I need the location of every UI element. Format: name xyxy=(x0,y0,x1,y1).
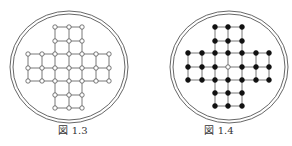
peg-hole-filled xyxy=(226,78,231,83)
peg-hole-empty xyxy=(67,25,71,29)
peg-hole-filled xyxy=(240,78,245,83)
peg-hole-empty xyxy=(226,65,230,69)
peg-hole-empty xyxy=(80,79,84,83)
peg-hole-empty xyxy=(80,39,84,43)
caption-figure-1-4: 図 1.4 xyxy=(146,122,292,137)
peg-hole-filled xyxy=(213,39,218,44)
peg-hole-filled xyxy=(240,25,245,30)
peg-hole-filled xyxy=(213,51,218,56)
peg-hole-filled xyxy=(254,65,259,70)
peg-hole-filled xyxy=(240,104,245,109)
peg-hole-empty xyxy=(107,66,111,70)
peg-hole-empty xyxy=(107,52,111,56)
peg-hole-empty xyxy=(53,39,57,43)
peg-hole-filled xyxy=(226,91,231,96)
peg-hole-empty xyxy=(80,25,84,29)
peg-hole-empty xyxy=(94,52,98,56)
peg-hole-empty xyxy=(40,52,44,56)
peg-hole-empty xyxy=(67,79,71,83)
peg-hole-empty xyxy=(80,52,84,56)
peg-hole-empty xyxy=(67,52,71,56)
peg-hole-empty xyxy=(67,106,71,110)
peg-hole-filled xyxy=(240,51,245,56)
peg-hole-empty xyxy=(40,66,44,70)
peg-hole-empty xyxy=(40,79,44,83)
peg-hole-empty xyxy=(80,93,84,97)
peg-hole-filled xyxy=(226,51,231,56)
peg-hole-empty xyxy=(53,52,57,56)
peg-hole-empty xyxy=(94,79,98,83)
peg-hole-filled xyxy=(267,78,272,83)
peg-hole-filled xyxy=(240,39,245,44)
peg-hole-empty xyxy=(26,79,30,83)
peg-hole-empty xyxy=(53,79,57,83)
peg-hole-filled xyxy=(267,51,272,56)
peg-hole-filled xyxy=(226,104,231,109)
peg-hole-empty xyxy=(80,66,84,70)
peg-hole-filled xyxy=(254,51,259,56)
peg-hole-empty xyxy=(53,25,57,29)
peg-hole-filled xyxy=(226,25,231,30)
figure-1-4: 図 1.4 xyxy=(146,0,292,146)
caption-figure-1-3: 図 1.3 xyxy=(0,122,146,137)
peg-hole-filled xyxy=(186,65,191,70)
peg-hole-filled xyxy=(226,39,231,44)
peg-hole-filled xyxy=(213,25,218,30)
peg-hole-filled xyxy=(240,91,245,96)
peg-hole-empty xyxy=(94,66,98,70)
peg-hole-filled xyxy=(213,104,218,109)
peg-hole-empty xyxy=(26,52,30,56)
peg-hole-empty xyxy=(67,93,71,97)
peg-hole-filled xyxy=(213,91,218,96)
peg-hole-filled xyxy=(213,78,218,83)
peg-hole-empty xyxy=(67,66,71,70)
peg-hole-filled xyxy=(267,65,272,70)
peg-hole-empty xyxy=(26,66,30,70)
peg-hole-filled xyxy=(200,78,205,83)
peg-hole-empty xyxy=(53,106,57,110)
peg-hole-empty xyxy=(67,39,71,43)
peg-hole-filled xyxy=(254,78,259,83)
peg-hole-empty xyxy=(53,93,57,97)
peg-hole-filled xyxy=(213,65,218,70)
peg-hole-filled xyxy=(240,65,245,70)
figure-1-3: 図 1.3 xyxy=(0,0,146,146)
peg-hole-empty xyxy=(80,106,84,110)
peg-hole-empty xyxy=(53,66,57,70)
peg-hole-filled xyxy=(200,65,205,70)
peg-hole-filled xyxy=(200,51,205,56)
peg-hole-filled xyxy=(186,51,191,56)
peg-hole-filled xyxy=(186,78,191,83)
peg-hole-empty xyxy=(107,79,111,83)
